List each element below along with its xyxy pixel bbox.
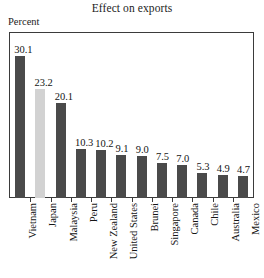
bar-value-label: 20.1 — [55, 91, 73, 102]
x-axis-tick — [152, 198, 153, 202]
x-axis-tick — [132, 198, 133, 202]
x-axis-label: Vietnam — [26, 203, 40, 278]
bar-value-label: 10.2 — [95, 138, 113, 149]
bar — [15, 56, 25, 198]
y-axis-label: Percent — [8, 16, 40, 28]
x-axis-tick — [91, 198, 92, 202]
x-axis-tick — [71, 198, 72, 202]
bar — [116, 155, 126, 198]
x-axis-label: Mexico — [249, 203, 263, 278]
x-axis-label: Chile — [208, 203, 222, 278]
x-axis-labels: VietnamJapanMalaysiaPeruNew ZealandUnite… — [10, 203, 253, 278]
x-axis-tick — [172, 198, 173, 202]
bar — [197, 173, 207, 198]
x-axis-tick — [51, 198, 52, 202]
bar — [76, 149, 86, 198]
plot-area: 30.123.220.110.310.29.19.07.57.05.34.94.… — [10, 33, 253, 198]
bar — [35, 89, 45, 198]
x-axis-label: United States — [127, 203, 141, 278]
x-axis-tick — [233, 198, 234, 202]
bar-group: 23.2 — [35, 33, 45, 198]
bar-group: 9.0 — [137, 33, 147, 198]
bar-value-label: 4.9 — [217, 163, 230, 174]
x-axis-label: New Zealand — [107, 203, 121, 278]
bar-value-label: 9.1 — [115, 143, 128, 154]
bar-group: 9.1 — [116, 33, 126, 198]
x-axis-tick — [192, 198, 193, 202]
bar-group: 5.3 — [197, 33, 207, 198]
x-axis-label: Canada — [188, 203, 202, 278]
bar-group: 4.9 — [218, 33, 228, 198]
bar — [177, 165, 187, 198]
x-axis-tick — [30, 198, 31, 202]
bar-group: 7.5 — [157, 33, 167, 198]
bar-value-label: 10.3 — [75, 137, 93, 148]
bar-group: 4.7 — [238, 33, 248, 198]
bar — [218, 175, 228, 198]
bar-group: 30.1 — [15, 33, 25, 198]
bar-value-label: 4.7 — [237, 164, 250, 175]
x-axis-tick — [213, 198, 214, 202]
bar — [56, 103, 66, 198]
bar-value-label: 23.2 — [34, 77, 52, 88]
bar-value-label: 9.0 — [136, 144, 149, 155]
x-axis-label: Malaysia — [67, 203, 81, 278]
bar-group: 10.3 — [76, 33, 86, 198]
x-axis-label: Peru — [87, 203, 101, 278]
bar — [238, 176, 248, 198]
chart-title: Effect on exports — [0, 1, 264, 15]
bar-value-label: 30.1 — [14, 44, 32, 55]
bar-value-label: 5.3 — [196, 161, 209, 172]
x-axis-label: Singapore — [168, 203, 182, 278]
bar — [157, 163, 167, 198]
bar-chart-figure: Effect on exports Percent 30.123.220.110… — [0, 0, 264, 278]
bar — [96, 150, 106, 198]
x-axis-label: Japan — [46, 203, 60, 278]
bar-value-label: 7.5 — [156, 151, 169, 162]
x-axis-label: Australia — [229, 203, 243, 278]
bar — [137, 156, 147, 198]
x-axis-label: Brunei — [148, 203, 162, 278]
bar-group: 20.1 — [56, 33, 66, 198]
bar-group: 10.2 — [96, 33, 106, 198]
x-axis-tick — [111, 198, 112, 202]
bar-group: 7.0 — [177, 33, 187, 198]
bar-value-label: 7.0 — [176, 153, 189, 164]
